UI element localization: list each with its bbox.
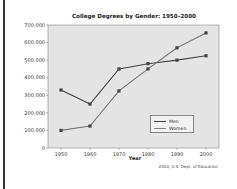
- line-chart: 0100,000200,000300,000400,000500,000600,…: [0, 0, 237, 189]
- x-tick-label: 1950: [55, 151, 68, 157]
- data-point: [117, 89, 120, 92]
- y-tick-label: 700,000: [24, 22, 45, 28]
- data-point: [146, 67, 149, 70]
- legend-item-women: Women: [154, 125, 186, 131]
- data-point: [175, 59, 178, 62]
- data-point: [204, 54, 207, 57]
- y-tick-label: 400,000: [24, 74, 45, 80]
- source-note: 2000, U.S. Dept. of Education: [140, 164, 218, 169]
- x-tick-label: 2000: [200, 151, 213, 157]
- women-line-swatch: [154, 128, 166, 129]
- x-tick-label: 1960: [84, 151, 97, 157]
- x-axis-label: Year: [120, 155, 150, 161]
- legend-label-men: Men: [169, 119, 179, 124]
- y-tick-label: 100,000: [24, 127, 45, 133]
- y-tick-label: 300,000: [24, 92, 45, 98]
- men-line-swatch: [154, 121, 166, 122]
- y-tick-label: 600,000: [24, 39, 45, 45]
- data-point: [204, 31, 207, 34]
- data-point: [88, 102, 91, 105]
- data-point: [146, 62, 149, 65]
- legend-item-men: Men: [154, 118, 179, 124]
- y-tick-label: 200,000: [24, 110, 45, 116]
- data-point: [88, 124, 91, 127]
- data-point: [59, 129, 62, 132]
- legend: Men Women: [150, 115, 194, 133]
- x-tick-label: 1990: [171, 151, 184, 157]
- y-tick-label: 0: [42, 145, 45, 151]
- data-point: [175, 46, 178, 49]
- data-point: [59, 88, 62, 91]
- y-tick-label: 500,000: [24, 57, 45, 63]
- legend-label-women: Women: [169, 126, 186, 131]
- data-point: [117, 67, 120, 70]
